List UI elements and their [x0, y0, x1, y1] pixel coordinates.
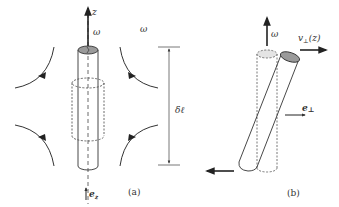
z-axis-label: z [91, 7, 97, 17]
vorticity-label-b: ω [271, 29, 279, 39]
vortex-tube-diagram: z ω ω [0, 0, 339, 207]
tube-cap [78, 46, 98, 54]
ez-label: ez [89, 189, 99, 200]
eperp-label: e⊥ [302, 103, 314, 114]
original-tube-cap [257, 50, 277, 58]
caption-b: (b) [287, 188, 300, 198]
vorticity-label: ω [93, 27, 101, 37]
flow-arrow-top-left-icon [15, 47, 54, 88]
flow-arcs [15, 47, 158, 166]
flow-arrow-bottom-left-icon [15, 125, 54, 166]
displaced-tube-cap [279, 50, 301, 65]
panel-b: ω v⊥(z) e⊥ (b) [207, 18, 326, 198]
panel-a: z ω ω [15, 7, 184, 204]
caption-a: (a) [128, 187, 140, 197]
flow-arrow-top-right-icon [120, 47, 158, 88]
outer-vorticity-label: ω [140, 24, 148, 34]
segment-length-label: δℓ [175, 105, 184, 115]
velocity-label: v⊥(z) [298, 33, 321, 44]
flow-arrow-bottom-right-icon [120, 125, 158, 166]
displaced-tube [239, 55, 299, 171]
flow-arrowheads [38, 72, 136, 141]
